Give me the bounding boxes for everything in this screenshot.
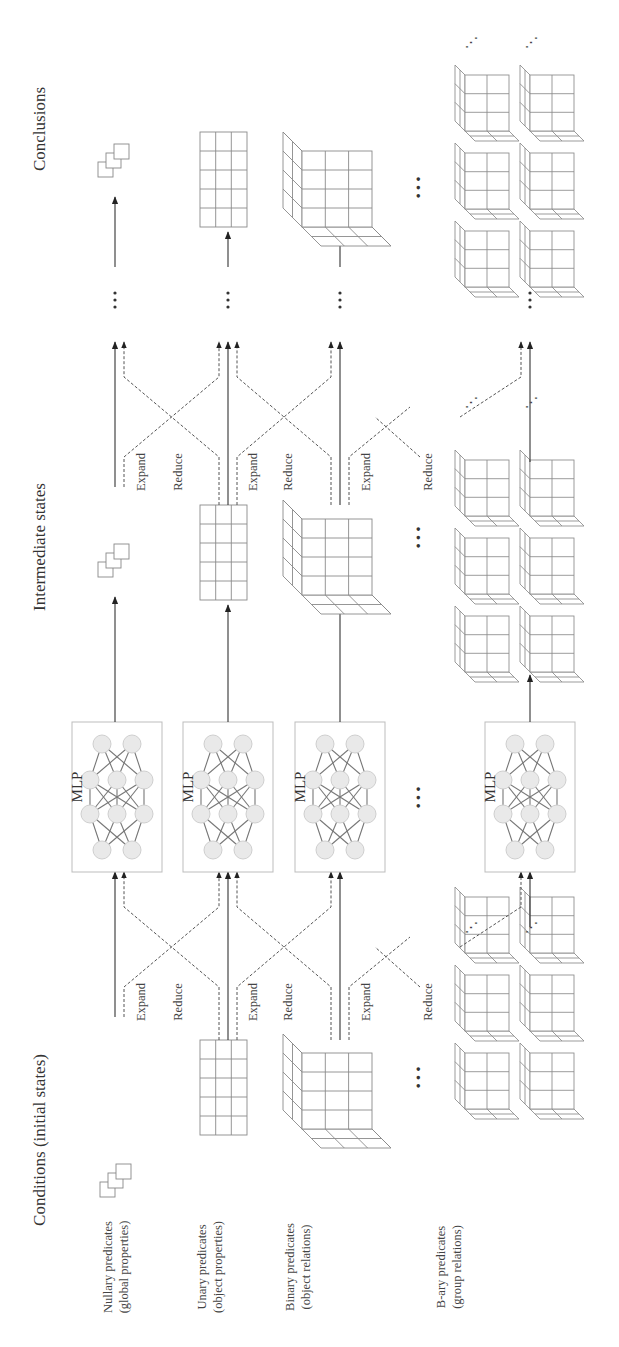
reduce-label-bary-cond: Reduce [421,983,435,1021]
svg-text:Binary predicates: Binary predicates [283,1223,297,1311]
svg-text:(global properties): (global properties) [117,1221,131,1314]
neural-network-icon [72,722,162,872]
mlp-block-bary: MLP [482,722,575,872]
reduce-label-unary-cond: Reduce [171,983,185,1021]
conclusion-row-ellipsis: ··· [405,174,430,199]
conclusions-title: Conclusions [30,87,49,171]
expand-label-nullary-cond: Expand [134,982,148,1021]
expand-label-nullary-int: Expand [134,452,148,491]
binary-intermediate-tensor [283,500,391,614]
small-ellipsis-concl-1: ⋱ [464,36,478,49]
small-ellipsis-int-2: ⋱ [524,396,538,409]
small-ellipsis-cond-1: ⋱ [464,921,478,934]
step-ellipses [113,291,531,308]
nullary-intermediate-tensor [98,544,129,577]
binary-conclusion-tensor [283,132,391,246]
neural-network-icon [295,722,385,872]
svg-text:MLP: MLP [482,772,498,803]
nullary-condition-tensor [100,1164,131,1197]
svg-text:MLP: MLP [180,772,196,803]
bary-intermediate-tensor [455,450,584,682]
reduce-label-unary-int: Reduce [171,453,185,491]
svg-text:(object relations): (object relations) [299,1224,313,1309]
expand-label-unary-cond: Expand [246,982,260,1021]
svg-text:MLP: MLP [69,772,85,803]
conditions-title: Conditions (initial states) [30,1054,49,1226]
nullary-conclusion-tensor [98,144,129,177]
expand-label-binary-int: Expand [359,452,373,491]
neural-network-icon [183,722,273,872]
row-label-unary: Unary predicates (object properties) [195,1221,225,1313]
row-label-nullary: Nullary predicates (global properties) [101,1221,131,1314]
unary-conclusion-tensor [200,132,247,227]
mlp-block-binary: MLP [292,722,385,872]
reduce-label-binary-int: Reduce [281,453,295,491]
unary-condition-tensor [200,1040,247,1135]
small-ellipsis-cond-2: ⋱ [524,921,538,934]
small-ellipsis-int-1: ⋱ [464,396,478,409]
bary-conclusion-tensor [455,65,584,297]
small-ellipsis-concl-2: ⋱ [524,36,538,49]
intermediate-row-ellipsis: ··· [405,524,430,549]
unary-intermediate-tensor [200,505,247,600]
mlp-block-nullary: MLP [69,722,162,872]
condition-row-ellipsis: ··· [405,1064,430,1089]
row-label-bary: B-ary predicates (group relations) [434,1225,464,1309]
mlp-block-unary: MLP [180,722,273,872]
expand-label-binary-cond: Expand [359,982,373,1021]
reduce-label-bary-int: Reduce [421,453,435,491]
svg-text:(group relations): (group relations) [450,1225,464,1309]
expand-label-unary-int: Expand [246,452,260,491]
reduce-label-binary-cond: Reduce [281,983,295,1021]
neural-network-icon [485,722,575,872]
svg-text:MLP: MLP [292,772,308,803]
svg-text:Unary predicates: Unary predicates [195,1224,209,1309]
row-label-binary: Binary predicates (object relations) [283,1223,313,1311]
svg-text:(object properties): (object properties) [211,1221,225,1313]
diagram-canvas: Conditions (initial states) Intermediate… [0,0,619,1347]
intermediate-title: Intermediate states [30,483,49,611]
svg-text:Nullary predicates: Nullary predicates [101,1221,115,1313]
binary-condition-tensor [283,1034,391,1148]
mlp-row-ellipsis: ··· [405,784,430,809]
svg-text:B-ary predicates: B-ary predicates [434,1226,448,1308]
